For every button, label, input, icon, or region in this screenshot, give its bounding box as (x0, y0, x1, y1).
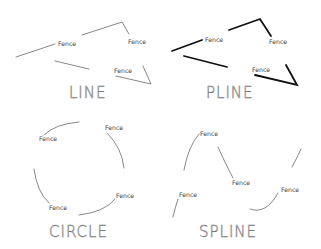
fence-label: Fence (49, 204, 67, 211)
circle-panel: Fence Fence Fence Fence CIRCLE (34, 122, 134, 241)
fence-label: Fence (105, 124, 123, 131)
line-panel: Fence Fence Fence LINE (16, 22, 151, 102)
circle-arc (107, 133, 124, 168)
line-segment (82, 22, 129, 35)
fence-label: Fence (116, 192, 134, 199)
fence-label: Fence (58, 40, 76, 47)
panel-title-line: LINE (69, 84, 106, 102)
spline-panel: Fence Fence Fence Fence SPLINE (173, 130, 301, 241)
polyline-segment (229, 19, 271, 36)
fence-label: Fence (128, 38, 146, 45)
fence-label: Fence (281, 186, 299, 193)
spline-segment (292, 149, 301, 167)
fence-label: Fence (252, 66, 270, 73)
pline-panel: Fence Fence Fence PLINE (172, 19, 297, 102)
circle-arc (79, 199, 115, 215)
panel-title-circle: CIRCLE (49, 223, 108, 241)
fence-label: Fence (200, 130, 218, 137)
spline-segment (173, 199, 178, 217)
fence-label: Fence (205, 36, 223, 43)
polyline-segment (184, 56, 227, 67)
panel-title-pline: PLINE (206, 84, 254, 102)
spline-segment (250, 193, 278, 210)
fence-label: Fence (269, 38, 287, 45)
fence-label: Fence (114, 67, 132, 74)
fence-label: Fence (39, 135, 57, 142)
fence-label: Fence (232, 179, 250, 186)
line-segment (16, 44, 55, 57)
circle-arc (44, 122, 79, 135)
spline-segment (184, 134, 199, 170)
fence-label: Fence (179, 191, 197, 198)
polyline-segment (172, 40, 202, 51)
line-segment (55, 61, 89, 69)
circle-arc (34, 169, 49, 203)
spline-segment (218, 147, 233, 178)
panel-title-spline: SPLINE (199, 223, 257, 241)
linetype-diagram: Fence Fence Fence LINE Fence Fence Fence… (0, 0, 321, 249)
